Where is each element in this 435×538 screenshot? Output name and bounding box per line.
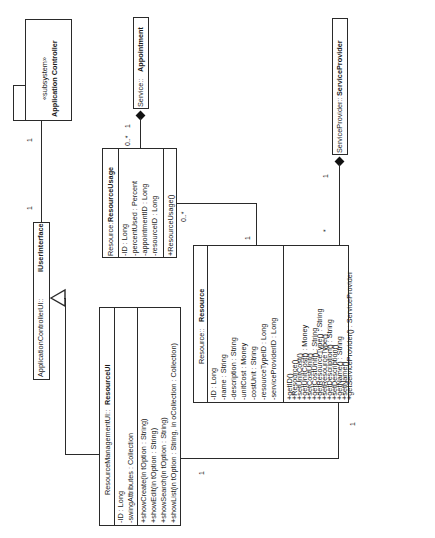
package-label-resourceusage: Resource:: bbox=[106, 221, 115, 256]
subsystem-tab bbox=[13, 85, 26, 121]
class-name-serviceprovider: ServiceProvider bbox=[335, 40, 344, 96]
class-name-resource: Resource bbox=[197, 289, 206, 322]
association-usage-resource bbox=[177, 203, 257, 204]
composition-sp-resource bbox=[339, 164, 340, 246]
composition-appointment-usage bbox=[140, 118, 141, 149]
package-label-resource: Resource:: bbox=[197, 329, 206, 364]
package-label-iuserinterface: ApplicationControllerUI:: bbox=[36, 298, 45, 377]
class-name-appointment: Appointment bbox=[136, 27, 145, 72]
attribute: -costUnit : String bbox=[249, 346, 258, 400]
multiplicity-appointment: 1 bbox=[124, 124, 131, 128]
attribute: -description : String bbox=[229, 337, 238, 400]
attribute: -ID : Long bbox=[209, 368, 218, 400]
class-name-resourceusage: ResourceUsage bbox=[106, 167, 115, 222]
association-resource-ui bbox=[338, 403, 339, 459]
stereotype-label: «subsystem» bbox=[40, 57, 49, 100]
operation: +showSearch(in tOption : String) bbox=[159, 417, 168, 523]
attribute: -appointmentID : Long bbox=[140, 184, 149, 256]
operation: +showCreate(in tOption : String) bbox=[139, 419, 148, 523]
multiplicity-usage-appointment: 0..* bbox=[124, 135, 131, 146]
multiplicity-resource-ui: 1 bbox=[349, 422, 356, 426]
attribute: -ID : Long bbox=[120, 224, 129, 256]
attribute: -resourceID : Long bbox=[150, 196, 159, 256]
realization-line bbox=[65, 298, 66, 454]
association-controller-ui bbox=[41, 121, 42, 222]
operation: +showEdit(in tOption : String) bbox=[149, 428, 158, 523]
association-usage-resource bbox=[256, 203, 257, 246]
attribute: -swingAttributes : Collection bbox=[126, 433, 135, 523]
multiplicity-controller: 1 bbox=[26, 138, 33, 142]
operation: +showList(in tOption : String, in oColle… bbox=[169, 343, 178, 523]
attribute: -ID : Long bbox=[116, 491, 125, 523]
realization-arrow-icon bbox=[50, 288, 70, 310]
package-label-appointment: Service:: bbox=[136, 79, 145, 107]
multiplicity-resource-usage: 1 bbox=[244, 236, 251, 240]
operation: +ResourceUsage() bbox=[166, 195, 175, 256]
realization-line-bottom bbox=[65, 454, 99, 455]
association-resource-ui bbox=[181, 458, 339, 459]
multiplicity-ui-resource: 1 bbox=[198, 471, 205, 475]
multiplicity-ui: 1 bbox=[26, 206, 33, 210]
attribute: -resourceTypeID : Long bbox=[259, 324, 268, 400]
multiplicity-usage-resource: 0..* bbox=[180, 211, 187, 222]
class-name-iuserinterface: IUserInterface bbox=[36, 223, 45, 272]
attribute: -unitCost : Money bbox=[239, 343, 248, 400]
multiplicity-sp: 1 bbox=[322, 174, 329, 178]
multiplicity-resource-sp: * bbox=[322, 229, 329, 232]
attribute: -percentUsed : Percent bbox=[130, 181, 139, 256]
operation: +getServiceProvider() : ServiceProvider bbox=[345, 272, 354, 400]
attribute: -name : String bbox=[219, 354, 228, 400]
class-name-application-controller: Application Controller bbox=[50, 40, 59, 117]
compartment-divider bbox=[163, 148, 164, 258]
package-label-resourceui: ResourceManagementUI:: bbox=[103, 410, 112, 495]
package-label-serviceprovider: ServiceProvider:: bbox=[335, 97, 344, 153]
attribute: -serviceProviderID : Long bbox=[269, 318, 278, 400]
class-name-resourceui: ResourceUI bbox=[103, 364, 112, 405]
